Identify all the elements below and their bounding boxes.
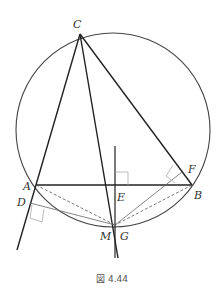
label-E: E	[116, 191, 125, 204]
label-A: A	[22, 180, 31, 193]
figure-caption: 図 4.44	[0, 272, 224, 285]
label-G: G	[120, 230, 129, 243]
line-CB	[80, 34, 192, 185]
dashed-BM	[115, 185, 192, 225]
right-angle-D	[30, 205, 44, 222]
geometry-diagram: C A B D E F M G	[0, 0, 224, 291]
label-B: B	[193, 189, 202, 202]
label-M: M	[99, 230, 112, 243]
label-C: C	[73, 18, 82, 31]
circumcircle	[16, 33, 210, 227]
line-MD	[30, 203, 115, 225]
line-MF	[115, 172, 182, 225]
right-angle-E	[115, 172, 128, 185]
right-angle-F	[166, 165, 175, 183]
label-F: F	[187, 163, 196, 176]
label-D: D	[16, 196, 26, 209]
